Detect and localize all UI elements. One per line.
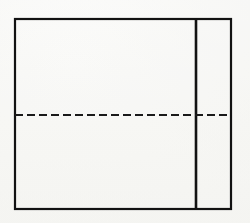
- figure-canvas: [0, 0, 250, 223]
- drawing-background: [0, 0, 250, 223]
- line-drawing-svg: [0, 0, 250, 223]
